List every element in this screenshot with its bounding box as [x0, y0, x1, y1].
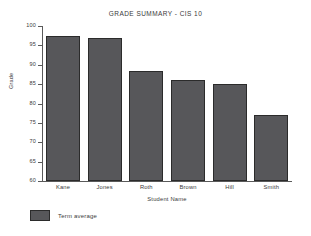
y-axis-tick-label: 95 — [29, 41, 36, 47]
x-axis-label-roth: Roth — [129, 184, 163, 190]
bar-chart: GRADE SUMMARY - CIS 10 Grade 10095908580… — [0, 0, 311, 236]
bar-brown — [171, 80, 205, 181]
chart-title: GRADE SUMMARY - CIS 10 — [0, 10, 311, 17]
x-axis-label-jones: Jones — [88, 184, 122, 190]
x-axis-label-brown: Brown — [171, 184, 205, 190]
legend-label-term-average: Term average — [58, 213, 97, 219]
x-axis-label-smith: Smith — [254, 184, 288, 190]
y-axis-tick-label: 65 — [29, 158, 36, 164]
plot-area: 1009590858075706560 KaneJonesRothBrownHi… — [42, 26, 292, 181]
legend: Term average — [30, 210, 97, 221]
bar-jones — [88, 38, 122, 181]
x-axis-label-kane: Kane — [46, 184, 80, 190]
x-axis-line — [42, 181, 292, 182]
y-axis-tick: 60 — [38, 181, 42, 182]
y-axis-title: Grade — [8, 73, 14, 89]
y-axis-tick-label: 80 — [29, 100, 36, 106]
y-axis-tick-label: 75 — [29, 119, 36, 125]
legend-swatch-term-average — [30, 210, 50, 221]
bar-roth — [129, 71, 163, 181]
bar-hill — [213, 84, 247, 181]
x-axis-label-hill: Hill — [213, 184, 247, 190]
y-axis-tick-label: 70 — [29, 138, 36, 144]
bar-kane — [46, 36, 80, 181]
bar-smith — [254, 115, 288, 181]
y-axis-tick-label: 60 — [29, 177, 36, 183]
y-axis-tick-label: 85 — [29, 80, 36, 86]
y-axis-tick-label: 90 — [29, 61, 36, 67]
y-axis-tick-label: 100 — [26, 22, 36, 28]
x-axis-title: Student Name — [42, 196, 292, 202]
bars-layer — [42, 26, 292, 181]
